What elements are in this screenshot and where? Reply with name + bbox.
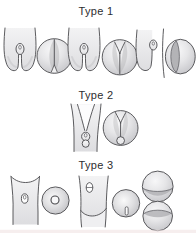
type3-row (11, 171, 173, 231)
type3-column-frontal-view-slit (79, 176, 108, 227)
cleft-nodule-lower (82, 140, 89, 147)
central-ring (51, 196, 59, 204)
type1-row (4, 28, 195, 78)
type1-axial-view-bottom-cleft (37, 39, 72, 74)
type1-bifid-frontal-view-1 (4, 28, 36, 71)
anatomy-type-diagram: Type 1 Type 2 Type 3 (0, 0, 196, 233)
type1-hemi-lobe-frontal-view (136, 29, 164, 78)
vertical-slit (125, 207, 128, 215)
type3-axial-view-vertical-slit (112, 190, 139, 217)
type3-axial-view-central-ring (42, 187, 69, 214)
type3-column-frontal-view-ring (11, 177, 40, 225)
type1-axial-view-left-crescent (165, 39, 195, 74)
type3-label: Type 3 (79, 159, 114, 171)
type2-cleft-frontal-view (71, 104, 101, 152)
figure-canvas: Type 1 Type 2 Type 3 (0, 0, 196, 233)
bottom-edge-strip (0, 230, 196, 233)
type2-axial-view (103, 111, 138, 146)
type1-axial-view-top-cleft (102, 40, 137, 75)
axial-nodule (117, 137, 125, 145)
type2-label: Type 2 (79, 89, 114, 101)
type1-bifid-frontal-view-2 (68, 28, 100, 71)
median-line (163, 29, 165, 78)
type2-row (71, 104, 138, 152)
type1-label: Type 1 (79, 5, 114, 17)
type3-stacked-spheres-view (142, 171, 173, 231)
upper-sphere (142, 171, 173, 202)
